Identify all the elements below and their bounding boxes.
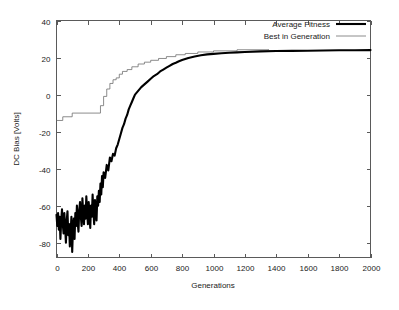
x-axis-tick-labels: 0200400600800100012001400160018002000 [55, 264, 381, 273]
data-series-layer [57, 49, 371, 252]
x-axis-title: Generations [191, 281, 235, 290]
line-chart-svg: 0200400600800100012001400160018002000 40… [0, 0, 399, 310]
legend-label-best-in-generation: Best in Generation [264, 32, 330, 41]
x-tick-label: 800 [176, 264, 190, 273]
y-tick-label: -20 [39, 129, 51, 138]
series-line-best-in-generation [57, 49, 269, 120]
x-tick-label: 1400 [268, 264, 286, 273]
y-tick-label: -40 [39, 166, 51, 175]
y-tick-label: -60 [39, 203, 51, 212]
x-tick-label: 400 [113, 264, 127, 273]
x-axis-ticks [58, 21, 372, 258]
y-tick-label: 0 [46, 92, 51, 101]
x-tick-label: 2000 [363, 264, 381, 273]
x-tick-label: 600 [145, 264, 159, 273]
x-tick-label: 1800 [331, 264, 349, 273]
x-tick-label: 1000 [206, 264, 224, 273]
legend-label-average-fitness: Average Fitness [272, 20, 330, 29]
x-tick-label: 0 [55, 264, 60, 273]
y-axis-tick-labels: 40200-20-40-60-80 [39, 18, 51, 249]
x-tick-label: 1600 [300, 264, 318, 273]
x-tick-label: 1200 [237, 264, 255, 273]
y-axis-title: DC Bias [Volts] [12, 112, 21, 165]
y-tick-label: -80 [39, 240, 51, 249]
chart-legend: Average Fitness Best in Generation [264, 20, 366, 41]
axes-border [57, 21, 371, 258]
y-tick-label: 40 [42, 18, 51, 27]
y-tick-label: 20 [42, 55, 51, 64]
plot-frame [57, 21, 371, 258]
series-line-average-fitness [57, 50, 371, 252]
x-tick-label: 200 [82, 264, 96, 273]
chart-figure: 0200400600800100012001400160018002000 40… [0, 0, 399, 310]
